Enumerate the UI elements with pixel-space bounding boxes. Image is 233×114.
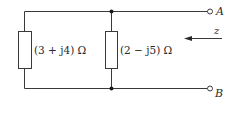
arrow-left-icon (184, 36, 192, 41)
bottom-junction-dot (110, 87, 114, 91)
impedance-z2-label: (2 − j5) Ω (120, 44, 173, 56)
top-junction-dot (110, 10, 114, 14)
impedance-z1-label: (3 + j4) Ω (34, 44, 87, 56)
circuit-diagram: A B (3 + j4) Ω (2 − j5) Ω z (0, 0, 233, 114)
terminal-a-label: A (215, 5, 224, 18)
impedance-arrow-label: z (213, 25, 220, 36)
terminal-b-label: B (214, 87, 223, 100)
terminal-b-circle (208, 86, 213, 91)
impedance-z1-resistor (19, 32, 32, 69)
impedance-z2-resistor (106, 32, 118, 69)
terminal-a-circle (208, 9, 213, 14)
